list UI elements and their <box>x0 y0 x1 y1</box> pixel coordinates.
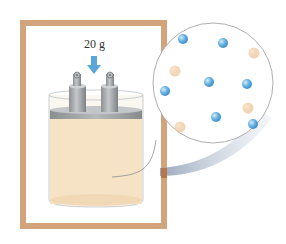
lid <box>50 106 142 119</box>
blue-particle <box>211 112 221 122</box>
frame-overlap <box>161 168 167 178</box>
blue-particle <box>204 77 214 87</box>
gas-piston-diagram <box>0 0 286 244</box>
tan-particle <box>175 122 186 133</box>
blue-particle <box>178 34 188 44</box>
blue-particle <box>218 38 228 48</box>
blue-particle <box>160 86 170 96</box>
tan-particle <box>249 48 260 59</box>
tan-particle <box>243 103 254 114</box>
blue-particle <box>248 119 258 129</box>
blue-particle <box>242 79 252 89</box>
sand-fill <box>50 118 142 204</box>
tan-particle <box>170 66 181 77</box>
mass-label: 20 g <box>84 37 105 52</box>
